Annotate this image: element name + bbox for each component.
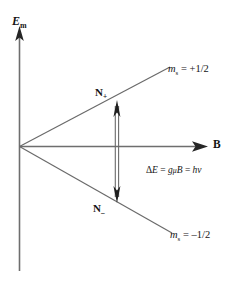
level-label-lower-main: m bbox=[170, 229, 178, 240]
level-label-lower: ms = –1/2 bbox=[170, 230, 210, 241]
population-label-upper: N+ bbox=[95, 87, 107, 98]
level-label-upper-value: = +1/2 bbox=[178, 63, 209, 74]
transition-arrowhead-up bbox=[113, 100, 120, 117]
level-label-upper-main: m bbox=[168, 63, 176, 74]
population-label-lower-sub: – bbox=[101, 209, 105, 217]
population-label-lower-main: N bbox=[93, 202, 101, 214]
population-label-upper-main: N bbox=[95, 86, 103, 98]
zeeman-splitting-diagram: Em B ms = +1/2 ms = –1/2 N+ N– ΔE = gμB … bbox=[0, 0, 252, 286]
equation-eq2: = bbox=[183, 165, 193, 175]
x-axis-label: B bbox=[213, 139, 221, 151]
level-line-lower bbox=[20, 147, 173, 234]
transition-equation: ΔE = gμB = hν bbox=[146, 166, 202, 176]
population-label-upper-sub: + bbox=[103, 93, 107, 101]
y-axis-label-sub: m bbox=[20, 21, 27, 30]
y-axis-label: Em bbox=[12, 15, 27, 27]
level-label-lower-value: = –1/2 bbox=[180, 229, 210, 240]
equation-nu: ν bbox=[197, 165, 201, 175]
level-label-upper: ms = +1/2 bbox=[168, 64, 209, 75]
y-axis-label-main: E bbox=[12, 14, 20, 28]
level-line-upper bbox=[20, 67, 171, 147]
equation-eq1: = bbox=[158, 165, 168, 175]
population-label-lower: N– bbox=[93, 203, 105, 214]
